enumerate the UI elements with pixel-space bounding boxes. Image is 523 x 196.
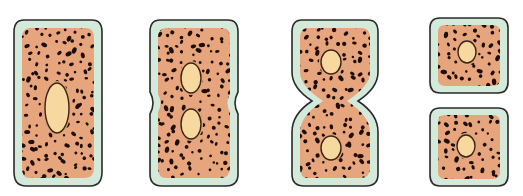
nucleus (321, 136, 341, 160)
daughter-cell-top (430, 18, 514, 93)
cells-group (14, 18, 515, 194)
dividing-cell-late (292, 20, 385, 194)
nucleus (458, 41, 476, 63)
daughter-cell-bottom (430, 108, 515, 190)
nucleus (45, 83, 69, 133)
cell-division-diagram (0, 0, 523, 196)
cell-division-figure (0, 0, 523, 196)
nucleus (457, 135, 475, 157)
nucleus (181, 109, 201, 139)
elongated-cell (14, 20, 108, 193)
dividing-cell-early (150, 20, 243, 194)
nucleus (181, 63, 201, 93)
nucleus (321, 50, 341, 74)
